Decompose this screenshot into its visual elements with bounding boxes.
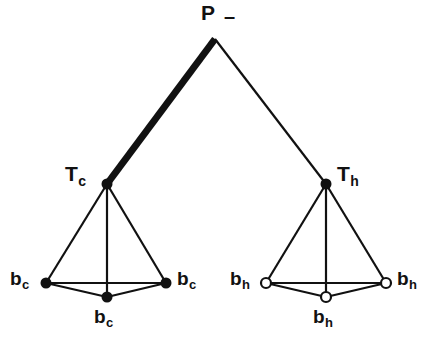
node-label-bh-right: bh bbox=[397, 269, 417, 288]
edge-bc-center-right bbox=[107, 283, 166, 297]
node-label-bh-left: bh bbox=[230, 269, 250, 288]
node-label-bh-center: bh bbox=[313, 307, 333, 326]
edge-layer bbox=[46, 39, 386, 297]
node-label-tc-main: T bbox=[65, 162, 78, 185]
node-marker-bc-left bbox=[41, 278, 52, 289]
edge-tc-bc-left bbox=[46, 184, 107, 283]
node-label-th-sub: h bbox=[350, 173, 359, 189]
edge-bh-center-right bbox=[326, 283, 386, 297]
node-label-p-main: P bbox=[201, 1, 215, 24]
edge-bc-left-center bbox=[46, 283, 107, 297]
edge-tc-bc-right bbox=[107, 184, 166, 283]
node-marker-bh-right bbox=[381, 278, 391, 288]
node-label-p: P bbox=[201, 2, 215, 23]
node-marker-bh-left bbox=[261, 278, 271, 288]
node-label-bh-left-main: b bbox=[230, 268, 242, 289]
node-label-bc-left-sub: c bbox=[22, 277, 29, 292]
node-label-bc-left-main: b bbox=[10, 268, 22, 289]
node-label-bc-center-main: b bbox=[94, 306, 106, 327]
node-label-th: Th bbox=[337, 163, 358, 184]
node-label-bc-left: bc bbox=[10, 269, 29, 288]
node-marker-Tc bbox=[102, 179, 113, 190]
dash-mark: – bbox=[224, 6, 235, 26]
node-label-bc-center: bc bbox=[94, 307, 113, 326]
node-marker-bc-center bbox=[102, 292, 113, 303]
diagram-figure: P – Tc Th bc bc bc bh bh bh bbox=[0, 0, 431, 347]
node-label-tc: Tc bbox=[65, 163, 86, 184]
node-label-bc-right: bc bbox=[177, 269, 196, 288]
node-label-bh-right-sub: h bbox=[409, 277, 417, 292]
edge-p-tc bbox=[107, 39, 215, 184]
edge-p-th bbox=[215, 39, 326, 184]
node-label-tc-sub: c bbox=[78, 173, 86, 189]
node-marker-bh-center bbox=[321, 292, 331, 302]
node-label-bh-center-sub: h bbox=[325, 315, 333, 330]
node-label-bc-center-sub: c bbox=[106, 315, 113, 330]
node-marker-Th bbox=[321, 179, 332, 190]
edge-th-bh-right bbox=[326, 184, 386, 283]
node-label-bh-right-main: b bbox=[397, 268, 409, 289]
node-label-th-main: T bbox=[337, 162, 350, 185]
edge-th-bh-left bbox=[266, 184, 326, 283]
node-label-bh-left-sub: h bbox=[242, 277, 250, 292]
node-label-bc-right-main: b bbox=[177, 268, 189, 289]
node-marker-bc-right bbox=[161, 278, 172, 289]
node-label-bh-center-main: b bbox=[313, 306, 325, 327]
edge-bh-left-center bbox=[266, 283, 326, 297]
node-label-bc-right-sub: c bbox=[189, 277, 196, 292]
